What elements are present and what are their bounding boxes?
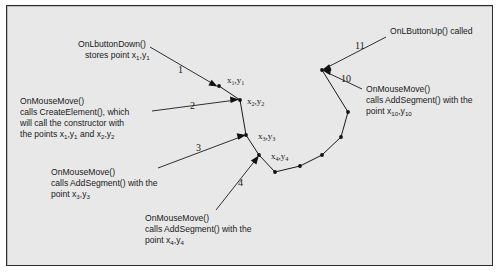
leader-4-arrowhead — [251, 156, 259, 165]
point-label-x1y1: x1,y1 — [227, 75, 244, 86]
leader-2-arrowhead — [230, 96, 239, 103]
annotation-create-sub4: 2 — [111, 133, 115, 140]
leader-line-1: 1 — [150, 47, 218, 87]
annotation-onlbuttonup-line1: OnLButtonUp() called — [390, 26, 473, 36]
leader-11-arrowhead — [322, 64, 331, 70]
annotation-add3-line3-a: point x — [51, 189, 77, 199]
annotation-create-line4: the points x1,y1 and x2,y2 — [20, 129, 115, 140]
annotation-add10-sub2: 10 — [405, 110, 412, 117]
annotation-add4-line2: calls AddSegment() with the — [145, 224, 252, 234]
point-label-x2y2-sub2: 2 — [261, 100, 264, 107]
polyline-vertex — [320, 153, 324, 157]
point-label-x3y3: x3,y3 — [258, 131, 275, 142]
annotation-add10-line1: OnMouseMove() — [366, 84, 430, 94]
annotation-onlbuttondown-line1: OnLbuttonDown() — [78, 39, 146, 49]
leader-line-2: 2 — [152, 96, 239, 111]
annotation-add10-line2: calls AddSegment() with the — [366, 95, 473, 105]
annotation-add4-line1: OnMouseMove() — [145, 213, 209, 223]
leader-1-arrowhead — [208, 80, 217, 87]
polyline-vertex — [320, 68, 324, 72]
diagram-canvas: 1 2 3 4 10 11 — [0, 0, 500, 273]
annotation-onlbuttondown: OnLbuttonDown() stores point x1,y1 — [78, 39, 150, 61]
leader-3-number: 3 — [196, 142, 201, 153]
annotation-onmousemove-addsegment-4: OnMouseMove() calls AddSegment() with th… — [145, 213, 252, 246]
leader-line-4: 4 — [216, 156, 259, 210]
annotation-add3-line2: calls AddSegment() with the — [51, 178, 158, 188]
polyline-vertex — [273, 170, 277, 174]
annotation-create-line1: OnMouseMove() — [20, 96, 84, 106]
leader-10-number: 10 — [341, 73, 351, 84]
annotation-create-line4-c: and x — [78, 129, 102, 139]
leader-line-10: 10 — [323, 68, 362, 89]
polyline-vertex — [339, 135, 343, 139]
annotation-onlbuttondown-sub2: 1 — [146, 54, 150, 61]
leader-1-number: 1 — [178, 64, 183, 75]
annotation-add3-sub2: 3 — [86, 193, 90, 200]
polyline-vertex — [346, 110, 350, 114]
point-label-x1y1-sub2: 1 — [241, 79, 244, 86]
point-label-x2y2: x2,y2 — [247, 96, 264, 107]
annotation-onlbuttonup: OnLButtonUp() called — [390, 26, 473, 36]
annotation-add4-line3-a: point x — [145, 235, 171, 245]
annotation-add10-line3: point x10,y10 — [366, 106, 412, 117]
point-label-x4y4: x4,y4 — [271, 151, 288, 162]
annotation-onlbuttondown-line2-a: stores point x — [85, 50, 137, 60]
annotation-onmousemove-createelement: OnMouseMove() calls CreateElement(), whi… — [19, 96, 130, 140]
point-label-x4y4-sub2: 4 — [285, 155, 288, 162]
annotation-create-line2: calls CreateElement(), which — [20, 107, 130, 117]
annotation-onmousemove-addsegment-3: OnMouseMove() calls AddSegment() with th… — [51, 167, 158, 200]
leader-11-number: 11 — [355, 40, 365, 51]
annotation-onmousemove-addsegment-10: OnMouseMove() calls AddSegment() with th… — [366, 84, 473, 117]
point-label-x3y3-sub2: 3 — [272, 135, 275, 142]
annotation-add10-line3-a: point x — [366, 106, 392, 116]
annotation-create-line4-a: the points x — [20, 129, 65, 139]
leader-4-number: 4 — [238, 177, 243, 188]
annotation-create-line3: will call the constructor with — [19, 118, 124, 128]
polyline-vertex — [298, 164, 302, 168]
figure-container: 1 2 3 4 10 11 — [0, 0, 500, 273]
annotation-onlbuttondown-line2: stores point x1,y1 — [85, 50, 150, 61]
leader-2-number: 2 — [190, 100, 195, 111]
annotation-add3-line3: point x3,y3 — [51, 189, 90, 200]
leader-4-line — [216, 158, 257, 210]
annotation-add4-line3: point x4,y4 — [145, 235, 184, 246]
leader-line-11: 11 — [322, 37, 386, 71]
annotation-add3-line1: OnMouseMove() — [51, 167, 115, 177]
leader-line-3: 3 — [158, 133, 246, 168]
polyline-vertex — [238, 98, 242, 102]
polyline-vertex — [217, 84, 221, 88]
annotation-add4-sub2: 4 — [180, 239, 184, 246]
